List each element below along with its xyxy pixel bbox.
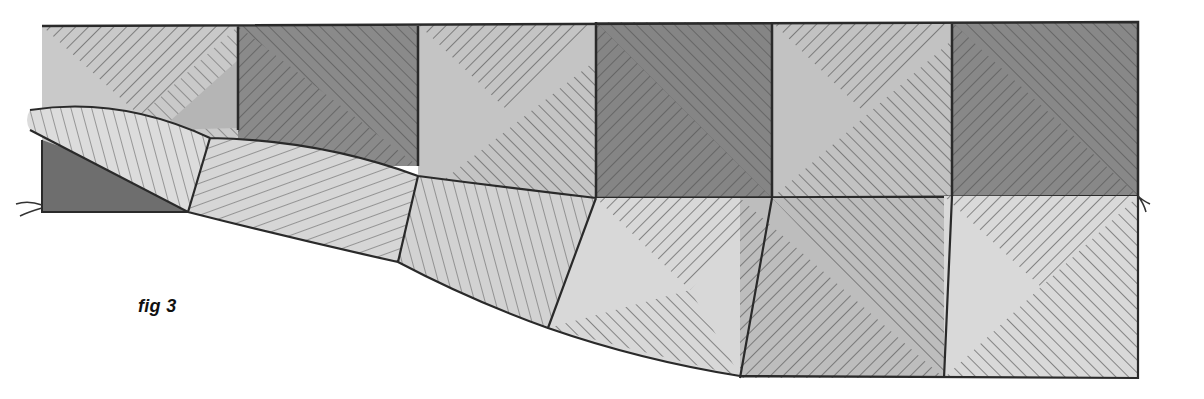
figure-caption: fig 3	[138, 296, 177, 317]
yarn-tail-right	[1138, 196, 1150, 212]
yarn-tail-left	[16, 202, 42, 216]
blanket-illustration	[0, 0, 1204, 399]
